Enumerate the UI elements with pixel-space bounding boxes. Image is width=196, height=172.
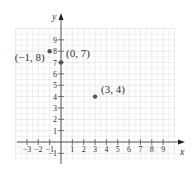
y-axis-arrow-icon bbox=[59, 13, 64, 20]
x-tick-label: 4 bbox=[104, 145, 108, 154]
data-point-label: (−1, 8) bbox=[15, 51, 45, 64]
x-tick-label: −2 bbox=[34, 145, 43, 154]
y-tick-label: 1 bbox=[53, 127, 57, 136]
x-tick-label: 7 bbox=[138, 145, 142, 154]
x-tick-label: 1 bbox=[70, 145, 74, 154]
y-tick-label: −1 bbox=[48, 149, 57, 158]
x-axis-arrow-icon bbox=[178, 140, 185, 145]
y-axis-label: y bbox=[51, 11, 57, 22]
data-point bbox=[93, 94, 97, 98]
x-tick-label: 3 bbox=[93, 145, 97, 154]
x-axis-label: x bbox=[179, 146, 185, 157]
y-tick-label: 4 bbox=[53, 93, 57, 102]
x-tick-label: 9 bbox=[161, 145, 165, 154]
y-tick-label: 9 bbox=[53, 36, 57, 45]
x-tick-label: 8 bbox=[150, 145, 154, 154]
data-point bbox=[59, 60, 63, 64]
data-point-label: (0, 7) bbox=[66, 47, 90, 60]
y-tick-label: 7 bbox=[53, 59, 57, 68]
y-tick-label: 5 bbox=[53, 81, 57, 90]
coordinate-plane: x y −3−2−1123456789−1123456789 (−1, 8)(0… bbox=[0, 0, 196, 172]
data-point bbox=[47, 49, 51, 53]
y-tick-label: 8 bbox=[53, 47, 57, 56]
x-tick-label: −3 bbox=[23, 145, 32, 154]
x-tick-label: 5 bbox=[116, 145, 120, 154]
y-tick-label: 6 bbox=[53, 70, 57, 79]
y-tick-label: 3 bbox=[53, 104, 57, 113]
x-tick-label: 6 bbox=[127, 145, 131, 154]
x-tick-label: 2 bbox=[82, 145, 86, 154]
data-point-label: (3, 4) bbox=[101, 83, 125, 96]
y-tick-label: 2 bbox=[53, 115, 57, 124]
